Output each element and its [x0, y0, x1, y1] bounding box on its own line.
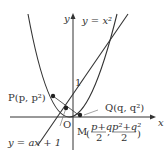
y-axis-label: y — [63, 13, 70, 24]
y-axis-arrow-icon — [71, 13, 76, 19]
parabola-label: y = x² — [81, 15, 112, 26]
line-label: y = ax + 1 — [7, 137, 61, 148]
y-intercept-label: 1 — [75, 77, 81, 88]
point-p-label: P(p, p²) — [8, 92, 46, 103]
x-axis-label: x — [158, 117, 164, 128]
point-m — [64, 106, 68, 110]
m-comma: , — [107, 126, 110, 137]
m-x-denominator: 2 — [96, 132, 102, 143]
point-q-label: Q(q, q²) — [105, 102, 144, 113]
m-right-paren: ) — [137, 128, 141, 139]
x-axis-arrow-icon — [150, 115, 156, 120]
point-q — [78, 113, 82, 117]
leader-q — [84, 110, 98, 115]
diagram-canvas: y x y = x² 1 O P(p, p²) Q(q, q²) y = ax … — [0, 0, 165, 156]
point-p — [51, 94, 55, 98]
m-y-denominator: 2 — [121, 132, 127, 143]
m-left-paren: ( — [86, 128, 90, 139]
diagram: y x y = x² 1 O P(p, p²) Q(q, q²) y = ax … — [0, 0, 165, 156]
origin-label: O — [63, 119, 71, 130]
